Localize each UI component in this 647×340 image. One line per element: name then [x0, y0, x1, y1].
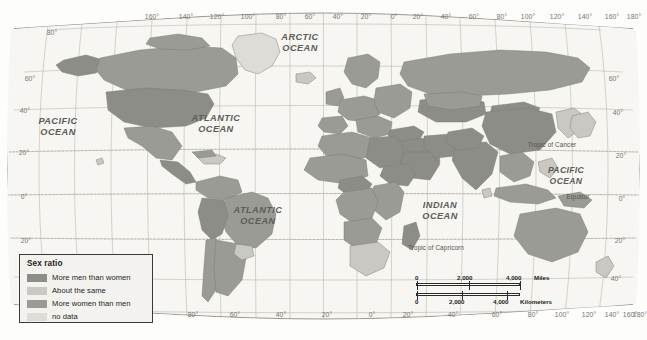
map-scalebar: 0 2,000 4,000 Miles 0 2,000 4,000 Kilome… — [416, 277, 536, 303]
legend-swatch-0 — [27, 274, 47, 282]
scalebar-kilometers-bar — [416, 293, 520, 296]
scalebar-tick — [417, 281, 418, 290]
legend-label-0: More men than women — [52, 273, 131, 282]
legend-swatch-2 — [27, 300, 47, 308]
legend-swatch-3 — [27, 313, 47, 321]
scalebar-km-tick-2: 4,000 — [493, 298, 508, 305]
scalebar-miles-tick-1: 2,000 — [457, 274, 472, 281]
world-map-figure: ARCTIC OCEAN PACIFIC OCEAN ATLANTIC OCEA… — [0, 0, 647, 340]
scalebar-tick — [520, 281, 521, 290]
scalebar-miles-tick-2: 4,000 — [506, 274, 521, 281]
scalebar-tick — [469, 281, 470, 290]
legend-label-3: no data — [52, 312, 78, 321]
legend-title: Sex ratio — [27, 259, 152, 268]
legend-item-1[interactable]: About the same — [27, 284, 152, 297]
legend-label-1: About the same — [52, 286, 106, 295]
legend-swatch-1 — [27, 287, 47, 295]
scalebar-km-unit: Kilometers — [520, 298, 552, 305]
scalebar-miles-bar — [416, 283, 520, 286]
scalebar-km-tick-0: 0 — [415, 298, 418, 305]
country-sri-lanka — [482, 188, 492, 198]
legend-item-2[interactable]: More women than men — [27, 297, 152, 310]
scalebar-miles-unit: Miles — [534, 274, 549, 281]
legend-rows: More men than womenAbout the sameMore wo… — [27, 271, 152, 323]
legend-item-0[interactable]: More men than women — [27, 271, 152, 284]
legend-label-2: More women than men — [52, 299, 131, 308]
scalebar-miles-tick-0: 0 — [415, 274, 418, 281]
legend-item-3[interactable]: no data — [27, 310, 152, 323]
map-legend: Sex ratio More men than womenAbout the s… — [19, 254, 153, 323]
scalebar-km-tick-1: 2,000 — [449, 298, 464, 305]
